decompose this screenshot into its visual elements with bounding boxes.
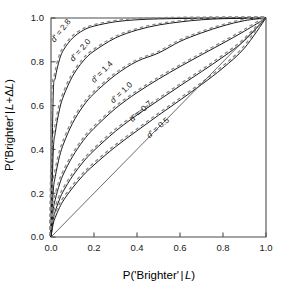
y-tick-label-0: 0.0 <box>31 231 44 242</box>
x-tick-label-5: 1.0 <box>259 242 272 253</box>
roc-chart-figure: 0.00.20.40.60.81.0 0.00.20.40.60.81.0 d'… <box>0 0 282 285</box>
y-axis-title: P('Brighter'|L+ΔL) <box>3 79 15 171</box>
svg-text:P('Brighter'|L): P('Brighter'|L) <box>123 269 196 281</box>
x-tick-label-4: 0.8 <box>216 242 229 253</box>
x-tick-label-2: 0.4 <box>130 242 143 253</box>
y-tick-label-3: 0.6 <box>31 100 44 111</box>
y-tick-label-4: 0.8 <box>31 56 44 67</box>
svg-text:P('Brighter'|L+ΔL): P('Brighter'|L+ΔL) <box>3 79 15 171</box>
x-tick-label-3: 0.6 <box>173 242 186 253</box>
x-axis-title: P('Brighter'|L) <box>123 269 196 281</box>
x-tick-label-0: 0.0 <box>44 242 57 253</box>
x-tick-label-1: 0.2 <box>87 242 100 253</box>
y-tick-label-5: 1.0 <box>31 12 44 23</box>
y-tick-label-2: 0.4 <box>31 144 44 155</box>
roc-chart-svg: 0.00.20.40.60.81.0 0.00.20.40.60.81.0 d'… <box>0 0 282 285</box>
y-tick-label-1: 0.2 <box>31 188 44 199</box>
